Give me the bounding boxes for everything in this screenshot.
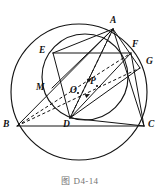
- point-label-D: D: [63, 120, 70, 130]
- point-label-E: E: [39, 46, 45, 56]
- dot-O: [77, 92, 79, 94]
- geometry-figure: A B C D E F G M O P 图 D4-14: [0, 0, 160, 187]
- point-label-M: M: [36, 83, 44, 93]
- outer-circumcircle: [11, 24, 147, 160]
- solid-segment-group: [17, 29, 144, 126]
- dashed-BG: [17, 68, 140, 126]
- figure-caption: 图 D4-14: [0, 174, 160, 187]
- point-label-B: B: [3, 120, 9, 130]
- segment-DG: [70, 68, 140, 118]
- segment-DC: [70, 118, 144, 126]
- dot-P: [96, 85, 98, 87]
- point-label-C: C: [148, 120, 154, 130]
- circle-group: [11, 24, 147, 160]
- point-label-O: O: [70, 86, 77, 96]
- point-label-P: P: [90, 77, 96, 87]
- point-label-G: G: [146, 57, 153, 67]
- geometry-canvas: [0, 0, 160, 187]
- segment-AC: [113, 29, 144, 126]
- segment-AM: [52, 29, 113, 88]
- point-label-F: F: [132, 40, 138, 50]
- point-label-A: A: [110, 16, 116, 26]
